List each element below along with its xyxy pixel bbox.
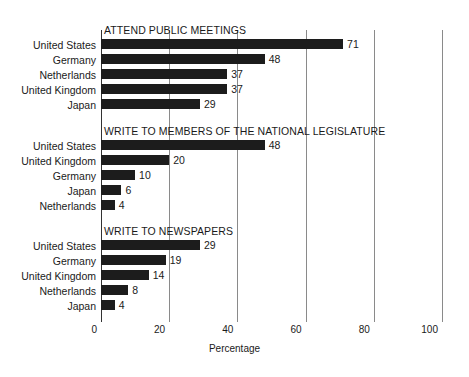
bar <box>101 140 265 150</box>
bar-value-label: 4 <box>119 200 125 211</box>
chart-row: United Kingdom14 <box>0 269 469 284</box>
bar <box>101 84 227 94</box>
category-label: Germany <box>53 255 96 267</box>
chart-row: United States29 <box>0 239 469 254</box>
bar <box>101 255 166 265</box>
bar-chart-figure: ATTEND PUBLIC MEETINGSUnited States71Ger… <box>0 0 469 377</box>
category-label: Netherlands <box>39 69 96 81</box>
chart-row: Netherlands4 <box>0 199 469 214</box>
category-label: Germany <box>53 170 96 182</box>
bar <box>101 185 121 195</box>
chart-row: Japan29 <box>0 98 469 113</box>
category-label: United States <box>33 140 96 152</box>
bar <box>101 99 200 109</box>
panel-rows: United States48United Kingdom20Germany10… <box>0 139 469 214</box>
bar <box>101 200 115 210</box>
chart-row: Germany19 <box>0 254 469 269</box>
category-label: Japan <box>67 185 96 197</box>
bar <box>101 170 135 180</box>
chart-row: Japan4 <box>0 299 469 314</box>
bar <box>101 285 128 295</box>
category-label: United States <box>33 240 96 252</box>
bar <box>101 54 265 64</box>
bar-value-label: 29 <box>204 99 216 110</box>
bar-value-label: 14 <box>153 270 165 281</box>
bar-value-label: 4 <box>119 300 125 311</box>
x-tick-label-0: 0 <box>57 325 97 335</box>
chart-row: United Kingdom37 <box>0 83 469 98</box>
x-tick-label-80: 80 <box>330 325 370 335</box>
chart-row: Netherlands8 <box>0 284 469 299</box>
panel-title: WRITE TO NEWSPAPERS <box>104 225 233 237</box>
bar <box>101 300 115 310</box>
panel-rows: United States71Germany48Netherlands37Uni… <box>0 38 469 113</box>
bar-value-label: 71 <box>347 39 359 50</box>
bar-value-label: 8 <box>132 285 138 296</box>
x-tick-label-100: 100 <box>398 325 438 335</box>
x-tick-label-60: 60 <box>262 325 302 335</box>
bar-value-label: 29 <box>204 240 216 251</box>
category-label: United Kingdom <box>21 270 96 282</box>
bar-value-label: 6 <box>125 185 131 196</box>
chart-row: Japan6 <box>0 184 469 199</box>
panel-rows: United States29Germany19United Kingdom14… <box>0 239 469 314</box>
panel-title: WRITE TO MEMBERS OF THE NATIONAL LEGISLA… <box>104 125 385 137</box>
bar <box>101 270 149 280</box>
chart-row: Netherlands37 <box>0 68 469 83</box>
category-label: Netherlands <box>39 285 96 297</box>
chart-row: United Kingdom20 <box>0 154 469 169</box>
panel-title: ATTEND PUBLIC MEETINGS <box>104 24 246 36</box>
category-label: United States <box>33 39 96 51</box>
category-label: Netherlands <box>39 200 96 212</box>
x-tick-label-20: 20 <box>125 325 165 335</box>
bar <box>101 155 169 165</box>
chart-row: Germany48 <box>0 53 469 68</box>
chart-row: United States71 <box>0 38 469 53</box>
chart-row: Germany10 <box>0 169 469 184</box>
bar-value-label: 19 <box>170 255 182 266</box>
x-tick-label-40: 40 <box>193 325 233 335</box>
category-label: Japan <box>67 300 96 312</box>
bar <box>101 69 227 79</box>
category-label: United Kingdom <box>21 155 96 167</box>
category-label: Germany <box>53 54 96 66</box>
bar <box>101 39 343 49</box>
bar <box>101 240 200 250</box>
bar-value-label: 37 <box>231 69 243 80</box>
category-label: Japan <box>67 99 96 111</box>
bar-value-label: 20 <box>173 155 185 166</box>
bar-value-label: 37 <box>231 84 243 95</box>
category-label: United Kingdom <box>21 84 96 96</box>
chart-row: United States48 <box>0 139 469 154</box>
x-axis-title: Percentage <box>0 343 469 354</box>
bar-value-label: 48 <box>269 54 281 65</box>
bar-value-label: 48 <box>269 140 281 151</box>
bar-value-label: 10 <box>139 170 151 181</box>
